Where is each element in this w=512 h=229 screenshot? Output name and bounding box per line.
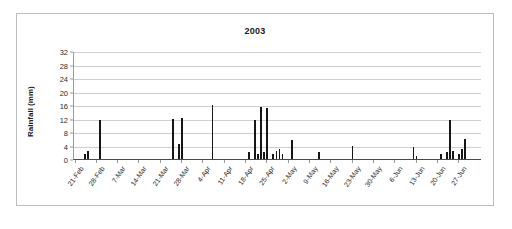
x-axis-tick-mark	[117, 160, 118, 163]
x-axis-tick-label-text: 11-Apr	[216, 165, 233, 186]
bar-series	[74, 52, 481, 159]
y-axis-tick-label: 4	[64, 142, 68, 151]
x-axis-tick-mark	[96, 160, 97, 163]
x-axis-tick-label-text: 21-Mar	[151, 165, 169, 187]
x-axis-tick-mark	[75, 160, 76, 163]
x-axis-tick-label-text: 23-May	[342, 165, 361, 188]
x-axis-tick-label-text: 13-Jun	[407, 165, 425, 187]
x-axis-tick-label-text: 9-May	[302, 165, 319, 185]
y-axis-tick-label: 28	[60, 61, 68, 70]
chart-title: 2003	[17, 26, 493, 36]
x-axis-tick-label-text: 6-Jun	[388, 165, 404, 183]
x-axis-tick-mark	[138, 160, 139, 163]
bar	[352, 146, 354, 160]
bar	[181, 118, 183, 159]
bar	[291, 140, 293, 159]
x-axis-tick-mark	[373, 160, 374, 163]
chart-frame: 2003 Rainfall (mm) 048121620242832 21-Fe…	[16, 13, 494, 206]
bar	[212, 105, 214, 159]
x-axis-tick-mark	[181, 160, 182, 163]
x-axis-tick-mark	[266, 160, 267, 163]
plot-wrapper: 048121620242832	[53, 52, 481, 160]
x-axis-tick-label-text: 28-Feb	[87, 165, 105, 187]
x-axis-tick-mark	[160, 160, 161, 163]
plot-area	[73, 52, 481, 160]
x-axis-tick-label-text: 30-May	[364, 165, 383, 188]
bar	[248, 152, 250, 159]
x-axis-tick-mark	[458, 160, 459, 163]
bar	[464, 139, 466, 159]
x-axis-tick-label-text: 16-May	[321, 165, 340, 188]
x-axis-tick-label-text: 2-May	[280, 165, 297, 185]
x-axis-tick-mark	[309, 160, 310, 163]
y-axis-tick-label: 32	[60, 48, 68, 57]
y-axis-tick-label: 16	[60, 102, 68, 111]
x-axis-tick-label-text: 28-Mar	[172, 165, 190, 187]
x-axis-tick-label-text: 20-Jun	[429, 165, 447, 187]
x-axis-tick-mark	[394, 160, 395, 163]
x-axis-tick-mark	[437, 160, 438, 163]
x-axis-tick-mark	[245, 160, 246, 163]
y-axis-tick-label: 24	[60, 75, 68, 84]
x-axis-tick-label-text: 18-Apr	[237, 165, 255, 186]
x-axis-tick-label-text: 7-Mar	[111, 165, 127, 184]
bar	[461, 149, 463, 159]
y-axis-tick-label: 12	[60, 115, 68, 124]
x-axis-tick-label-text: 25-Apr	[258, 165, 276, 186]
bar	[458, 154, 460, 159]
y-axis-tick-label: 8	[64, 129, 68, 138]
x-axis-tick-label-text: 4-Apr	[197, 165, 213, 183]
x-axis-tick-mark	[288, 160, 289, 163]
y-axis-tick-labels: 048121620242832	[53, 52, 73, 160]
bar	[440, 154, 442, 159]
x-axis-tick-mark	[352, 160, 353, 163]
x-axis-tick-mark	[330, 160, 331, 163]
bar	[99, 120, 101, 159]
x-axis-tick-mark	[202, 160, 203, 163]
x-axis-tick-label-text: 21-Feb	[66, 165, 84, 187]
y-axis-title: Rainfall (mm)	[23, 68, 37, 156]
x-axis-tick-labels: 21-Feb28-Feb7-Mar14-Mar21-Mar28-Mar4-Apr…	[73, 160, 501, 212]
x-axis-tick-mark	[224, 160, 225, 163]
bar	[416, 156, 418, 159]
y-axis-tick-label: 0	[64, 156, 68, 165]
x-axis-tick-label-text: 14-Mar	[130, 165, 148, 187]
x-axis-tick-mark	[416, 160, 417, 163]
x-axis-tick-label-text: 27-Jun	[450, 165, 468, 187]
y-axis-tick-label: 20	[60, 88, 68, 97]
